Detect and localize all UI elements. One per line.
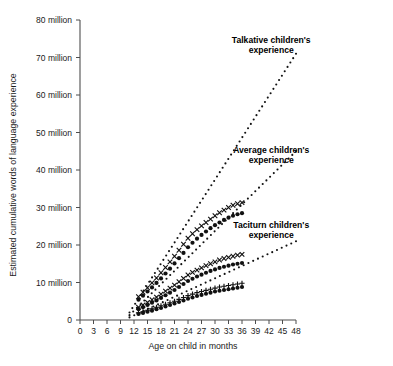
extrapolation-dot: [214, 277, 216, 279]
extrapolation-dot: [186, 290, 188, 292]
extrapolation-lines-group: [128, 53, 297, 319]
data-point: [159, 270, 164, 275]
data-point: [190, 270, 195, 275]
extrapolation-dot: [191, 215, 193, 217]
data-point: [208, 269, 212, 273]
data-point: [222, 256, 227, 261]
data-point: [177, 279, 182, 284]
x-tick-label: 24: [183, 326, 193, 336]
y-axis: 010 million20 million30 million40 millio…: [36, 15, 80, 325]
extrapolation-dot: [225, 219, 227, 221]
extrapolation-dot: [193, 211, 195, 213]
data-point: [231, 254, 236, 259]
data-point: [217, 258, 222, 263]
extrapolation-dot: [131, 307, 133, 309]
data-point: [235, 201, 240, 206]
extrapolation-dot: [224, 162, 226, 164]
data-point: [163, 293, 167, 297]
y-tick-label: 70 million: [36, 53, 72, 63]
extrapolation-dot: [157, 268, 159, 270]
extrapolation-dot: [236, 208, 238, 210]
extrapolation-dot: [167, 299, 169, 301]
data-point: [172, 301, 176, 305]
data-point: [172, 261, 176, 265]
data-point: [163, 271, 167, 275]
extrapolation-dot: [173, 270, 175, 272]
data-point: [154, 298, 158, 302]
extrapolation-dot: [252, 260, 254, 262]
extrapolation-dot: [271, 251, 273, 253]
data-point: [222, 265, 226, 269]
data-point: [204, 271, 208, 275]
language-experience-chart: 010 million20 million30 million40 millio…: [0, 0, 393, 366]
extrapolation-taciturn: [128, 240, 297, 318]
extrapolation-dot: [272, 88, 274, 90]
extrapolation-dot: [222, 167, 224, 169]
data-point: [199, 266, 204, 271]
data-point: [226, 255, 231, 260]
extrapolation-dot: [140, 303, 142, 305]
extrapolation-dot: [202, 197, 204, 199]
data-point: [204, 229, 208, 233]
data-point: [150, 285, 154, 289]
extrapolation-dot: [152, 305, 154, 307]
extrapolation-dot: [289, 61, 291, 63]
extrapolation-dot: [140, 294, 142, 296]
extrapolation-dot: [219, 275, 221, 277]
data-point: [186, 297, 190, 301]
data-point: [172, 288, 176, 292]
data-point: [168, 291, 172, 295]
data-point: [204, 292, 208, 296]
extrapolation-dot: [151, 292, 153, 294]
extrapolation-dot: [241, 136, 243, 138]
extrapolation-dot: [281, 75, 283, 77]
extrapolation-dot: [251, 194, 253, 196]
extrapolation-dot: [253, 118, 255, 120]
y-tick-label: 50 million: [36, 128, 72, 138]
data-point: [150, 301, 154, 305]
data-point: [231, 203, 236, 208]
x-tick-label: 39: [251, 326, 261, 336]
data-point: [208, 217, 213, 222]
extrapolation-dot: [169, 274, 171, 276]
extrapolation-dot: [200, 284, 202, 286]
data-point: [190, 241, 194, 245]
y-tick-label: 0: [67, 315, 72, 325]
x-tick-label: 45: [278, 326, 288, 336]
extrapolation-dot: [132, 310, 134, 312]
extrapolation-dot: [205, 282, 207, 284]
data-point: [217, 289, 221, 293]
data-point: [208, 261, 213, 266]
extrapolation-dot: [154, 272, 156, 274]
data-point: [159, 306, 163, 310]
extrapolation-dot: [216, 175, 218, 177]
data-point: [235, 286, 239, 290]
extrapolation-dot: [214, 230, 216, 232]
data-point: [163, 265, 168, 270]
extrapolation-dot: [145, 285, 147, 287]
extrapolation-dot: [174, 241, 176, 243]
data-point: [190, 231, 195, 236]
extrapolation-dot: [143, 300, 145, 302]
data-point: [240, 285, 244, 289]
extrapolation-dot: [133, 314, 135, 316]
data-point: [208, 226, 212, 230]
extrapolation-dot: [205, 193, 207, 195]
y-axis-title: Estimated cumulative words of language e…: [8, 73, 18, 277]
data-point: [213, 223, 217, 227]
data-point: [195, 227, 200, 232]
data-point: [195, 274, 199, 278]
extrapolation-dot: [247, 127, 249, 129]
data-point: [204, 263, 209, 268]
extrapolation-dot: [239, 140, 241, 142]
extrapolation-dot: [128, 314, 130, 316]
extrapolation-dot: [238, 266, 240, 268]
data-point: [199, 224, 204, 229]
data-point: [177, 248, 182, 253]
data-point: [240, 211, 244, 215]
data-point: [168, 260, 173, 265]
x-tick-label: 42: [264, 326, 274, 336]
extrapolation-dot: [162, 281, 164, 283]
data-point: [213, 289, 217, 293]
extrapolation-dot: [276, 168, 278, 170]
